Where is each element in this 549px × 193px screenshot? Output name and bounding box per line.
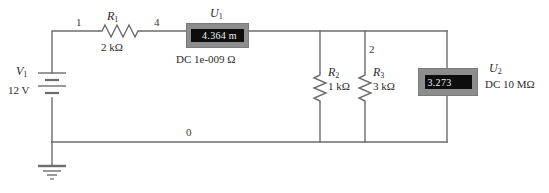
u2-ref-letter: U (489, 61, 498, 75)
v1-value: 12 V (8, 85, 30, 96)
u2-display-reading: 3.273 (425, 75, 472, 89)
r1-value: 2 kΩ (101, 42, 123, 53)
r3-value: 3 kΩ (373, 81, 395, 92)
u1-ammeter[interactable]: 4.364 m (186, 23, 249, 48)
circuit-schematic-svg (0, 0, 549, 193)
r2-resistor-symbol (314, 72, 326, 103)
u2-reference-designator: U2 (489, 62, 502, 74)
u1-display-reading: 4.364 m (191, 29, 244, 42)
u1-ref-letter: U (210, 6, 219, 20)
node-label-1: 1 (76, 17, 82, 28)
r3-reference-designator: R3 (373, 66, 384, 78)
node-label-0: 0 (186, 127, 192, 138)
node-label-2: 2 (369, 44, 375, 55)
v1-ref-subscript: 1 (23, 70, 27, 79)
r3-ref-subscript: 3 (380, 71, 384, 80)
r2-ref-subscript: 2 (335, 71, 339, 80)
u2-voltmeter[interactable]: 3.273 (418, 68, 478, 96)
ground-symbol (38, 166, 66, 179)
r2-value: 1 kΩ (328, 81, 350, 92)
u1-spec: DC 1e-009 Ω (176, 54, 236, 65)
circuit-diagram: 1 4 2 0 V1 12 V R1 2 kΩ R2 1 kΩ R3 3 kΩ … (0, 0, 549, 193)
r1-ref-subscript: 1 (114, 15, 118, 24)
u1-ref-subscript: 1 (219, 12, 223, 21)
v1-reference-designator: V1 (16, 65, 27, 77)
u2-spec: DC 10 MΩ (485, 79, 535, 90)
v1-battery-symbol (38, 73, 66, 93)
r1-reference-designator: R1 (107, 10, 118, 22)
u1-reference-designator: U1 (210, 7, 223, 19)
r2-reference-designator: R2 (328, 66, 339, 78)
r1-resistor-symbol (98, 25, 142, 37)
wire-v1-to-r1 (52, 31, 98, 73)
node-label-4: 4 (154, 17, 160, 28)
u2-ref-subscript: 2 (498, 67, 502, 76)
r3-resistor-symbol (359, 72, 371, 103)
